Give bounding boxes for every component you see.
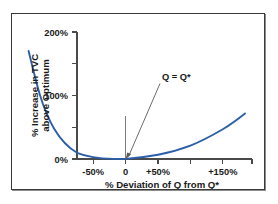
x-tick-label-plus150: +150%: [208, 167, 238, 177]
optimum-annotation: Q = Q*: [126, 72, 191, 160]
x-axis-title: % Deviation of Q from Q*: [105, 179, 219, 189]
tvc-increase-curve: [29, 51, 245, 159]
y-tick-label-0: 0%: [55, 155, 69, 165]
chart-page: Q = Q* 200% 100% 0% -50% 0 +50% +150% % …: [0, 0, 278, 204]
annotation-label-q-equals-qstar: Q = Q*: [162, 72, 191, 82]
x-tick-label-minus50: -50%: [82, 167, 104, 177]
x-tick-label-0: 0: [123, 167, 128, 177]
y-tick-label-200: 200%: [44, 28, 69, 38]
y-axis-title-line2: above Optimum: [40, 59, 51, 132]
x-tick-label-plus50: +50%: [146, 167, 171, 177]
y-axis-title-line1: % Increase in TVC: [29, 54, 40, 137]
eoq-sensitivity-chart: Q = Q* 200% 100% 0% -50% 0 +50% +150% % …: [12, 14, 264, 189]
figure-frame: Q = Q* 200% 100% 0% -50% 0 +50% +150% % …: [11, 13, 265, 190]
annotation-leader-line: [129, 84, 161, 157]
